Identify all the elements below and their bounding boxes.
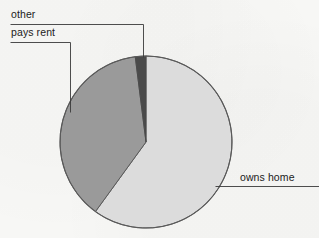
slice-label-owns-home: owns home [240,171,295,183]
pie-slices [60,56,232,228]
pie-chart-figure: other pays rent owns home [0,0,319,238]
slice-label-pays-rent: pays rent [11,26,55,38]
slice-label-other: other [11,8,35,20]
leader-line-pays-rent [11,43,71,113]
